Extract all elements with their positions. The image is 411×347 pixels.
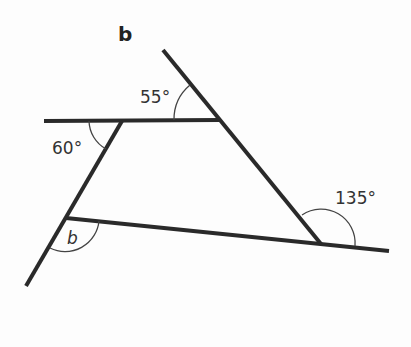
- part-label: b: [118, 24, 132, 44]
- angle-label-55: 55°: [140, 89, 170, 106]
- right-line: [163, 50, 321, 244]
- arc-55: [174, 85, 190, 120]
- bottom-line: [66, 218, 389, 251]
- angle-label-135: 135°: [335, 190, 376, 207]
- triangle-diagram: [0, 0, 411, 347]
- angle-label-60: 60°: [52, 140, 82, 157]
- top-line: [44, 120, 219, 121]
- angle-label-b: b: [67, 230, 78, 247]
- arc-60: [89, 121, 106, 149]
